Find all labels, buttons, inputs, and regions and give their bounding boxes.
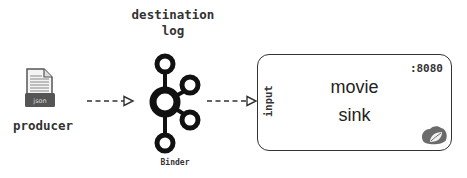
json-badge-text: json <box>32 97 46 105</box>
destination-title: destination log <box>118 7 228 39</box>
arrow-binder-to-sink <box>206 94 258 108</box>
kafka-logo-icon <box>140 52 210 156</box>
port-label: :8080 <box>410 62 443 75</box>
movie-sink-box: input :8080 movie sink <box>257 54 452 151</box>
spring-logo-icon <box>420 125 448 147</box>
producer-label: producer <box>8 118 78 133</box>
sink-name-line1: movie <box>258 77 451 98</box>
json-file-icon: json <box>24 68 56 110</box>
destination-title-line1: destination <box>118 7 228 23</box>
binder-label: Binder <box>150 158 200 167</box>
arrow-producer-to-binder <box>86 94 136 108</box>
sink-name-line2: sink <box>258 105 451 126</box>
destination-title-line2: log <box>118 23 228 39</box>
